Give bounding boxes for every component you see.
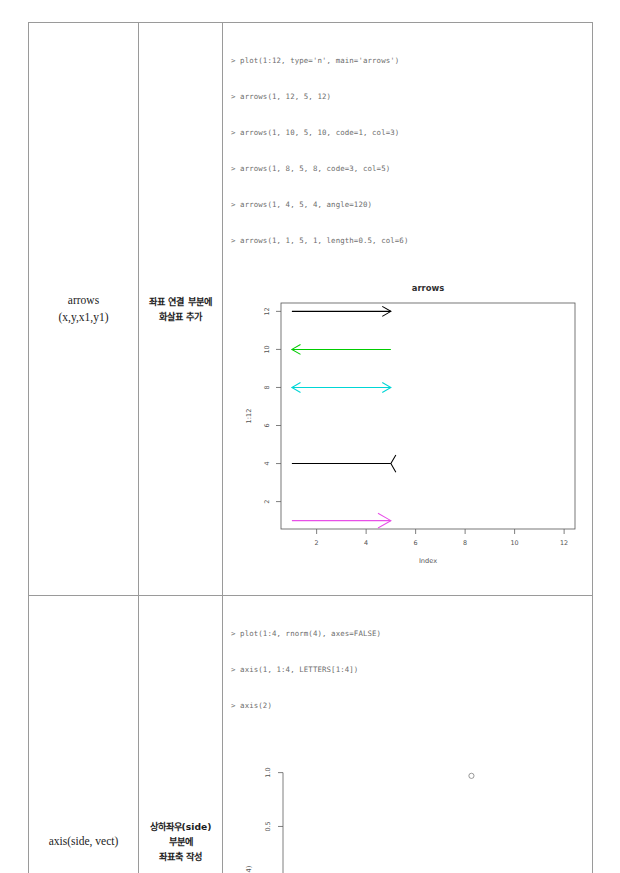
x-tick-label: 8 [463,539,467,547]
y-tick-label: 10 [263,345,271,353]
y-tick-label: 4 [263,461,271,465]
axis-plot: -1.0-0.50.00.51.0ABCD1:4rnorm(4) [223,740,592,873]
y-tick-label: 12 [263,307,271,315]
example-cell: > plot(1:4, rnorm(4), axes=FALSE) > axis… [223,595,593,873]
table-row: arrows (x,y,x1,y1) 좌표 연결 부분에 화살표 추가 > pl… [29,23,593,596]
description-cell: 상하좌우(side) 부분에 좌표축 작성 [139,595,223,873]
y-axis-label: 1:12 [245,408,253,423]
arrow-head [391,455,396,472]
y-tick-label: 6 [263,423,271,427]
arrows-plot: arrows2468101224681012Index1:12 [223,275,592,595]
arrow-2 [292,344,391,354]
y-tick-label: 1.0 [264,767,272,777]
y-tick-label: 2 [263,499,271,503]
description-line: 좌표축 작성 [139,849,222,864]
x-tick-label: 10 [511,539,519,547]
description-line: 좌표 연결 부분에 [139,294,222,309]
function-name: arrows [29,292,138,309]
x-tick-label: 12 [560,539,568,547]
description-line: 화살표 추가 [139,309,222,324]
x-tick-label: 6 [414,539,418,547]
plot-title: arrows [412,283,444,293]
description-cell: 좌표 연결 부분에 화살표 추가 [139,23,223,596]
code-line: > arrows(1, 12, 5, 12) [231,91,592,103]
function-name: axis(side, vect) [29,833,138,850]
arrow-1 [292,306,391,316]
function-name-cell: arrows (x,y,x1,y1) [29,23,139,596]
code-line: > arrows(1, 10, 5, 10, code=1, col=3) [231,127,592,139]
code-line: > arrows(1, 8, 5, 8, code=3, col=5) [231,163,592,175]
reference-table: arrows (x,y,x1,y1) 좌표 연결 부분에 화살표 추가 > pl… [28,22,593,873]
code-block: > plot(1:12, type='n', main='arrows') > … [223,23,592,275]
code-line: > axis(2) [231,700,592,712]
table-row: axis(side, vect) 상하좌우(side) 부분에 좌표축 작성 >… [29,595,593,873]
function-name-cell: axis(side, vect) [29,595,139,873]
code-line: > arrows(1, 1, 5, 1, length=0.5, col=6) [231,235,592,247]
y-tick-label: 0.5 [264,821,272,831]
x-tick-label: 4 [364,539,368,547]
code-line: > axis(1, 1:4, LETTERS[1:4]) [231,664,592,676]
data-point [469,773,474,778]
arrows-plot-svg: arrows2468101224681012Index1:12 [223,275,593,595]
code-line: > plot(1:4, rnorm(4), axes=FALSE) [231,628,592,640]
page-container: arrows (x,y,x1,y1) 좌표 연결 부분에 화살표 추가 > pl… [28,22,592,852]
code-block: > plot(1:4, rnorm(4), axes=FALSE) > axis… [223,596,592,740]
y-tick-label: 8 [263,385,271,389]
code-line: > arrows(1, 4, 5, 4, angle=120) [231,199,592,211]
description-line: 상하좌우(side) [139,819,222,834]
arrow-3 [292,382,391,392]
example-cell: > plot(1:12, type='n', main='arrows') > … [223,23,593,596]
axis-plot-svg: -1.0-0.50.00.51.0ABCD1:4rnorm(4) [223,740,593,873]
code-line: > plot(1:12, type='n', main='arrows') [231,55,592,67]
arrow-4 [292,455,396,472]
description-line: 부분에 [139,834,222,849]
y-axis-label: rnorm(4) [245,865,253,873]
x-axis-label: Index [419,557,437,565]
plot-box [281,303,575,529]
function-args: (x,y,x1,y1) [29,309,138,326]
arrow-5 [292,513,391,528]
x-tick-label: 2 [315,539,319,547]
